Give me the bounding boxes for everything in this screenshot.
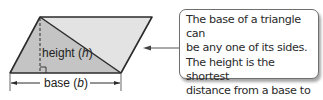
callout-box: The base of a triangle can be any one of…: [179, 9, 319, 79]
base-label: base (b): [44, 76, 88, 90]
arrowhead-left-icon: [11, 81, 17, 85]
height-label: height (h): [42, 46, 93, 60]
callout-text: The base of a triangle can be any one of…: [186, 13, 318, 100]
arrowhead-right-icon: [114, 81, 120, 85]
callout-arrowhead-icon: [143, 46, 151, 51]
